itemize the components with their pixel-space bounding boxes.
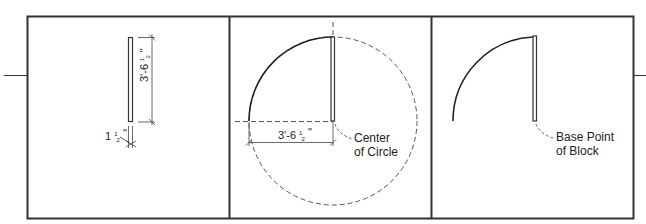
panel-circle-construction: 3'-6 1 2 " Center of Circle [235, 22, 417, 205]
door-leaf [331, 37, 335, 121]
base-point-callout-label-2: of Block [556, 144, 600, 158]
panel-door-block: Base Point of Block [453, 36, 615, 158]
door-swing-arc [453, 37, 533, 121]
center-callout-label: Center [354, 131, 390, 145]
length-dimension-label: 3'-6 1 2 " [134, 48, 152, 82]
center-callout-label-2: of Circle [354, 145, 398, 159]
door-leaf [129, 38, 133, 122]
radius-dimension-label: 3'-6 1 2 " [278, 125, 312, 143]
base-point-callout-label: Base Point [556, 130, 615, 144]
center-callout-leader [335, 124, 352, 139]
base-point-callout-leader [536, 124, 553, 138]
door-swing-arc [249, 37, 333, 121]
thickness-dimension-label: 1 1 2 " [105, 126, 127, 144]
panel-door-leaf: 3'-6 1 2 " 1 1 2 " [105, 34, 155, 148]
frame [4, 16, 646, 219]
door-leaf [533, 36, 537, 121]
door-block-diagram: 3'-6 1 2 " 1 1 2 " [0, 0, 646, 224]
